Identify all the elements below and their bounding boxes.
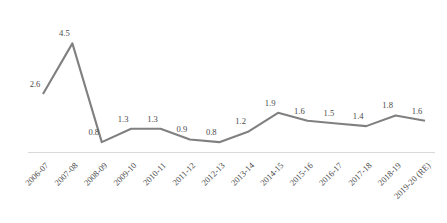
series-line bbox=[43, 43, 425, 142]
data-point-label: 4.5 bbox=[59, 28, 70, 38]
data-point-label: 1.9 bbox=[265, 98, 276, 108]
data-point-label: 1.8 bbox=[382, 100, 393, 110]
x-axis-tick-label: 2010-11 bbox=[141, 160, 168, 187]
x-axis-tick-label: 2016-17 bbox=[317, 160, 345, 188]
x-axis-tick-label: 2006-07 bbox=[23, 160, 51, 188]
data-point-label: 1.4 bbox=[353, 111, 364, 121]
data-point-label: 0.8 bbox=[206, 127, 217, 137]
x-axis-tick-label: 2015-16 bbox=[288, 160, 316, 188]
x-axis-tick-label: 2009-10 bbox=[111, 160, 138, 187]
x-axis-tick-label: 2011-12 bbox=[170, 160, 197, 187]
data-point-label: 1.5 bbox=[323, 108, 334, 118]
chart-canvas: 2.64.50.81.31.30.90.81.21.91.61.51.41.81… bbox=[0, 0, 447, 223]
x-axis-tick-group: 2006-072007-082008-092009-102010-112011-… bbox=[23, 160, 432, 201]
data-point-label: 1.3 bbox=[147, 114, 158, 124]
data-point-label: 1.6 bbox=[294, 106, 305, 116]
x-axis-tick-label: 2017-18 bbox=[346, 160, 373, 187]
data-point-label: 1.3 bbox=[118, 114, 129, 124]
data-point-label: 1.2 bbox=[235, 116, 246, 126]
data-point-label: 1.6 bbox=[412, 106, 423, 116]
line-chart: 2.64.50.81.31.30.90.81.21.91.61.51.41.81… bbox=[0, 0, 447, 223]
data-label-group: 2.64.50.81.31.30.90.81.21.91.61.51.41.81… bbox=[30, 28, 423, 137]
data-point-label: 2.6 bbox=[30, 79, 41, 89]
x-axis-tick-label: 2012-13 bbox=[199, 160, 226, 187]
data-point-label: 0.8 bbox=[88, 127, 99, 137]
data-point-label: 0.9 bbox=[177, 124, 188, 134]
x-axis-tick-label: 2014-15 bbox=[258, 160, 285, 187]
x-axis-tick-label: 2013-14 bbox=[229, 160, 257, 188]
x-axis-tick-label: 2007-08 bbox=[52, 160, 79, 187]
x-axis-tick-label: 2008-09 bbox=[82, 160, 109, 187]
x-axis-tick-label: 2018-19 bbox=[376, 160, 403, 187]
